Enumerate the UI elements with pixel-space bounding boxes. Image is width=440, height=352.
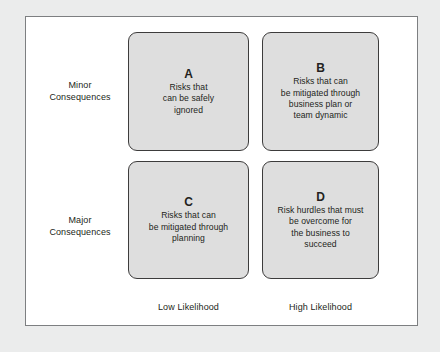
- row-label-major-line1: Major: [32, 214, 128, 226]
- cell-d-line-1: Risk hurdles that must: [277, 205, 363, 216]
- figure-frame: Minor Consequences Major Consequences A …: [25, 16, 418, 326]
- cell-b-letter: B: [316, 61, 325, 75]
- cell-a-description: Risks that can be safely ignored: [163, 82, 214, 116]
- cell-d-line-4: succeed: [277, 239, 363, 250]
- cell-c-line-2: be mitigated through: [149, 222, 228, 233]
- cell-c-description: Risks that can be mitigated through plan…: [149, 210, 228, 244]
- row-label-minor-line1: Minor: [32, 79, 128, 91]
- row-label-minor-consequences: Minor Consequences: [32, 79, 128, 103]
- row-label-minor-line2: Consequences: [32, 91, 128, 103]
- matrix-cell-b: B Risks that can be mitigated through bu…: [262, 32, 379, 151]
- cell-b-line-1: Risks that can: [281, 76, 360, 87]
- cell-d-letter: D: [316, 190, 325, 204]
- column-label-low-likelihood: Low Likelihood: [128, 301, 249, 313]
- cell-a-letter: A: [184, 67, 193, 81]
- cell-b-line-4: team dynamic: [281, 110, 360, 121]
- row-label-major-line2: Consequences: [32, 226, 128, 238]
- cell-c-line-3: planning: [149, 233, 228, 244]
- matrix-cell-a: A Risks that can be safely ignored: [128, 32, 249, 151]
- cell-a-line-3: ignored: [163, 105, 214, 116]
- cell-b-line-3: business plan or: [281, 99, 360, 110]
- cell-b-description: Risks that can be mitigated through busi…: [281, 76, 360, 122]
- cell-b-line-2: be mitigated through: [281, 88, 360, 99]
- matrix-cell-c: C Risks that can be mitigated through pl…: [128, 161, 249, 279]
- cell-c-letter: C: [184, 195, 193, 209]
- risk-matrix: Minor Consequences Major Consequences A …: [26, 17, 417, 325]
- cell-a-line-1: Risks that: [163, 82, 214, 93]
- cell-a-line-2: can be safely: [163, 93, 214, 104]
- column-label-high-likelihood: High Likelihood: [262, 301, 379, 313]
- cell-d-line-2: be overcome for: [277, 216, 363, 227]
- matrix-cell-d: D Risk hurdles that must be overcome for…: [262, 161, 379, 279]
- cell-c-line-1: Risks that can: [149, 210, 228, 221]
- cell-d-description: Risk hurdles that must be overcome for t…: [277, 205, 363, 251]
- row-label-major-consequences: Major Consequences: [32, 214, 128, 238]
- cell-d-line-3: the business to: [277, 228, 363, 239]
